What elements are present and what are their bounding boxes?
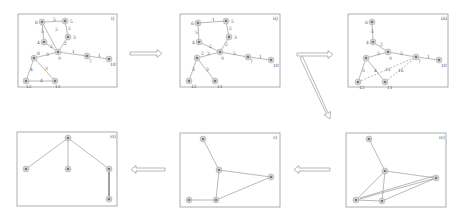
arrow-right-icon xyxy=(130,50,162,58)
svg-text:5: 5 xyxy=(195,30,198,35)
node xyxy=(23,166,29,172)
panel-ii: ii) 1 2 5 2 2 5 1 3 2 3 3 6 5 3 4 9 7 10… xyxy=(180,14,280,89)
node xyxy=(65,135,71,141)
node: 4 xyxy=(192,39,202,45)
svg-text:8: 8 xyxy=(37,51,40,56)
svg-text:4: 4 xyxy=(37,40,40,45)
svg-text:2: 2 xyxy=(201,51,204,56)
graph-diagram: i) 5 2 5 2 2 2 1 1 3 4 3 4 6 5 3 4 9 7 1… xyxy=(0,0,461,219)
svg-text:10: 10 xyxy=(273,63,279,68)
arrow-diagonal-icon xyxy=(300,57,331,120)
svg-text:4: 4 xyxy=(192,40,195,45)
node xyxy=(433,175,439,181)
node xyxy=(366,136,372,142)
svg-text:10: 10 xyxy=(441,63,447,68)
panel-i: i) 5 2 5 2 2 2 1 1 3 4 3 4 6 5 3 4 9 7 1… xyxy=(18,14,117,89)
panel-label: v) xyxy=(272,135,278,140)
svg-text:3: 3 xyxy=(73,35,76,40)
svg-text:5: 5 xyxy=(41,29,44,34)
svg-text:4: 4 xyxy=(374,68,377,73)
svg-text:11: 11 xyxy=(217,84,223,89)
svg-text:5: 5 xyxy=(371,29,374,34)
svg-text:5: 5 xyxy=(70,19,73,24)
svg-text:1: 1 xyxy=(72,49,75,54)
svg-text:3: 3 xyxy=(192,67,195,72)
node xyxy=(106,166,112,172)
svg-text:1: 1 xyxy=(212,17,215,22)
svg-text:7: 7 xyxy=(89,59,92,64)
svg-text:3: 3 xyxy=(206,67,209,72)
svg-text:3: 3 xyxy=(46,52,49,57)
svg-text:5: 5 xyxy=(233,51,236,56)
svg-text:3: 3 xyxy=(377,51,380,56)
panel-label: iv) xyxy=(439,135,445,140)
node: 6 xyxy=(365,19,375,25)
svg-text:4: 4 xyxy=(30,67,33,72)
svg-text:2: 2 xyxy=(229,26,232,31)
svg-text:6: 6 xyxy=(365,20,368,25)
svg-text:2: 2 xyxy=(380,42,383,47)
svg-text:7: 7 xyxy=(250,59,253,64)
svg-text:12: 12 xyxy=(191,84,197,89)
svg-text:9: 9 xyxy=(389,56,392,61)
svg-text:12: 12 xyxy=(359,85,365,90)
node xyxy=(106,196,112,202)
arrow-left-icon xyxy=(294,166,330,174)
svg-text:1: 1 xyxy=(427,54,430,59)
node xyxy=(363,55,369,61)
svg-text:5: 5 xyxy=(231,19,234,24)
svg-text:2: 2 xyxy=(64,41,67,46)
svg-text:2: 2 xyxy=(225,42,228,47)
node xyxy=(213,197,219,203)
svg-text:1: 1 xyxy=(98,53,101,58)
node: 6 xyxy=(191,20,201,26)
svg-text:6: 6 xyxy=(191,21,194,26)
node xyxy=(65,166,71,172)
svg-text:11: 11 xyxy=(387,85,393,90)
svg-text:4: 4 xyxy=(366,40,369,45)
node xyxy=(353,197,359,203)
node xyxy=(268,174,274,180)
svg-text:9: 9 xyxy=(58,56,61,61)
svg-text:3: 3 xyxy=(362,68,365,73)
svg-text:2: 2 xyxy=(55,27,58,32)
svg-text:10: 10 xyxy=(110,62,116,67)
svg-text:3: 3 xyxy=(207,51,210,56)
svg-text:16: 16 xyxy=(398,68,404,73)
panel-label: i) xyxy=(111,16,114,21)
svg-text:2: 2 xyxy=(209,44,212,49)
panel-iii: iii) 5 2 3 5 1 3 4 11 16 6 4 9 7 10 12 1… xyxy=(348,14,448,90)
node xyxy=(194,55,200,61)
node xyxy=(200,136,206,142)
svg-text:7: 7 xyxy=(418,59,421,64)
node xyxy=(186,197,192,203)
node: 6 xyxy=(35,19,45,25)
panel-vi: vi) xyxy=(17,132,117,206)
svg-text:9: 9 xyxy=(221,56,224,61)
svg-text:5: 5 xyxy=(400,51,403,56)
svg-text:11: 11 xyxy=(55,84,61,89)
svg-text:3: 3 xyxy=(45,66,48,71)
panel-label: iii) xyxy=(441,16,447,21)
arrow-left-icon xyxy=(131,166,165,174)
svg-text:5: 5 xyxy=(53,17,56,22)
node: 4 xyxy=(37,39,47,45)
svg-text:6: 6 xyxy=(35,20,38,25)
panel-iv: iv) xyxy=(346,133,446,207)
panel-label: ii) xyxy=(273,16,278,21)
svg-text:4: 4 xyxy=(40,78,43,83)
panel-label: vi) xyxy=(109,134,116,139)
svg-text:2: 2 xyxy=(68,26,71,31)
node xyxy=(216,167,222,173)
panel-v: v) xyxy=(180,133,280,207)
svg-text:12: 12 xyxy=(26,84,32,89)
svg-text:3: 3 xyxy=(234,35,237,40)
svg-text:2: 2 xyxy=(50,44,53,49)
node xyxy=(382,168,388,174)
svg-text:11: 11 xyxy=(385,67,391,72)
node: 4 xyxy=(366,39,376,45)
node xyxy=(379,198,385,204)
svg-text:1: 1 xyxy=(259,54,262,59)
